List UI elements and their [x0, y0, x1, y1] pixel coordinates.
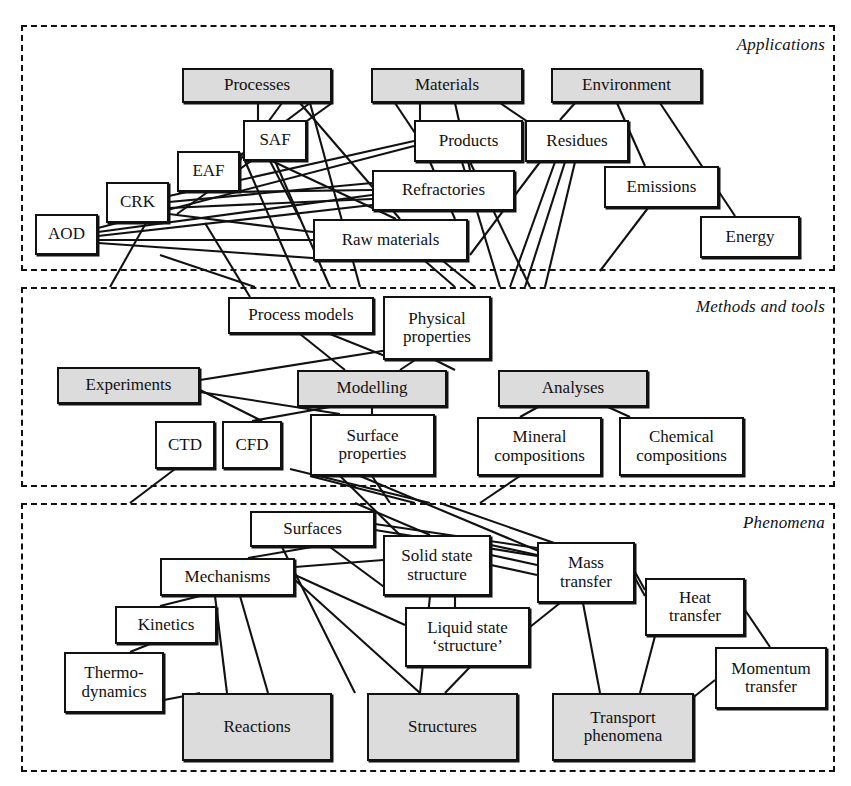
node-surfaces[interactable]: Surfaces [250, 511, 375, 547]
node-environment[interactable]: Environment [551, 68, 702, 103]
diagram-canvas: ApplicationsMethods and toolsPhenomena P… [0, 0, 851, 786]
node-chemicalcomp[interactable]: Chemicalcompositions [619, 417, 744, 476]
node-residues[interactable]: Residues [525, 120, 629, 162]
node-refractories[interactable]: Refractories [372, 170, 515, 211]
node-label: Modelling [337, 379, 408, 397]
node-label: Chemicalcompositions [636, 428, 727, 464]
node-surfaceprops[interactable]: Surfaceproperties [310, 414, 435, 476]
node-label: Reactions [223, 718, 290, 736]
node-label: Experiments [86, 376, 172, 394]
node-heattransfer[interactable]: Heattransfer [645, 578, 745, 636]
node-label: Solid statestructure [401, 547, 472, 583]
node-saf[interactable]: SAF [243, 120, 307, 161]
node-label: Liquid state‘structure’ [427, 619, 508, 655]
node-label: Kinetics [138, 616, 195, 634]
node-label: Transportphenomena [584, 709, 662, 745]
node-label: Mineralcompositions [494, 428, 585, 464]
node-label: CTD [168, 436, 202, 454]
node-reactions[interactable]: Reactions [182, 693, 332, 761]
node-analyses[interactable]: Analyses [498, 370, 648, 407]
node-masstransfer[interactable]: Masstransfer [537, 542, 635, 603]
node-label: Heattransfer [669, 589, 721, 625]
node-label: Emissions [627, 178, 697, 196]
node-kinetics[interactable]: Kinetics [115, 606, 217, 644]
node-physicalprops[interactable]: Physicalproperties [383, 296, 491, 360]
node-label: Products [439, 132, 499, 150]
node-label: Physicalproperties [403, 310, 471, 346]
node-processes[interactable]: Processes [182, 68, 332, 103]
node-processmodels[interactable]: Process models [228, 297, 374, 334]
node-momentum[interactable]: Momentumtransfer [715, 647, 827, 709]
node-label: Refractories [402, 181, 485, 199]
node-rawmaterials[interactable]: Raw materials [313, 219, 468, 261]
node-transport[interactable]: Transportphenomena [552, 693, 694, 761]
node-label: EAF [192, 162, 224, 180]
node-label: CRK [120, 193, 155, 211]
node-label: AOD [48, 225, 85, 243]
node-thermodynamics[interactable]: Thermo-dynamics [64, 652, 164, 713]
node-label: Raw materials [342, 231, 440, 249]
node-materials[interactable]: Materials [371, 68, 523, 103]
node-label: Thermo-dynamics [81, 664, 146, 700]
node-eaf[interactable]: EAF [177, 151, 240, 192]
node-mechanisms[interactable]: Mechanisms [160, 558, 295, 596]
node-aod[interactable]: AOD [35, 214, 98, 255]
node-emissions[interactable]: Emissions [604, 166, 719, 208]
node-label: Materials [415, 76, 479, 94]
node-modelling[interactable]: Modelling [297, 370, 447, 407]
node-liquidstate[interactable]: Liquid state‘structure’ [405, 607, 530, 667]
node-label: Surfaceproperties [339, 427, 407, 463]
node-structures[interactable]: Structures [367, 693, 518, 761]
node-label: Momentumtransfer [731, 660, 810, 696]
node-label: SAF [259, 131, 290, 149]
node-cfd[interactable]: CFD [222, 421, 282, 469]
node-label: Structures [408, 718, 477, 736]
node-solidstate[interactable]: Solid statestructure [383, 535, 491, 596]
node-label: Processes [224, 76, 290, 94]
node-crk[interactable]: CRK [106, 182, 169, 223]
node-label: Residues [546, 132, 607, 150]
node-label: Energy [726, 228, 775, 246]
node-experiments[interactable]: Experiments [57, 367, 200, 404]
section-label-applications: Applications [737, 35, 825, 55]
section-label-methods: Methods and tools [696, 297, 825, 317]
node-label: Process models [248, 306, 353, 324]
node-ctd[interactable]: CTD [155, 421, 215, 469]
node-label: Environment [582, 76, 671, 94]
node-label: Masstransfer [560, 554, 612, 590]
section-label-phenomena: Phenomena [743, 513, 825, 533]
node-label: CFD [235, 436, 268, 454]
node-label: Mechanisms [185, 568, 271, 586]
node-mineralcomp[interactable]: Mineralcompositions [477, 417, 602, 476]
node-label: Surfaces [283, 520, 342, 538]
node-label: Analyses [542, 379, 604, 397]
node-energy[interactable]: Energy [700, 216, 800, 258]
node-products[interactable]: Products [414, 120, 523, 162]
